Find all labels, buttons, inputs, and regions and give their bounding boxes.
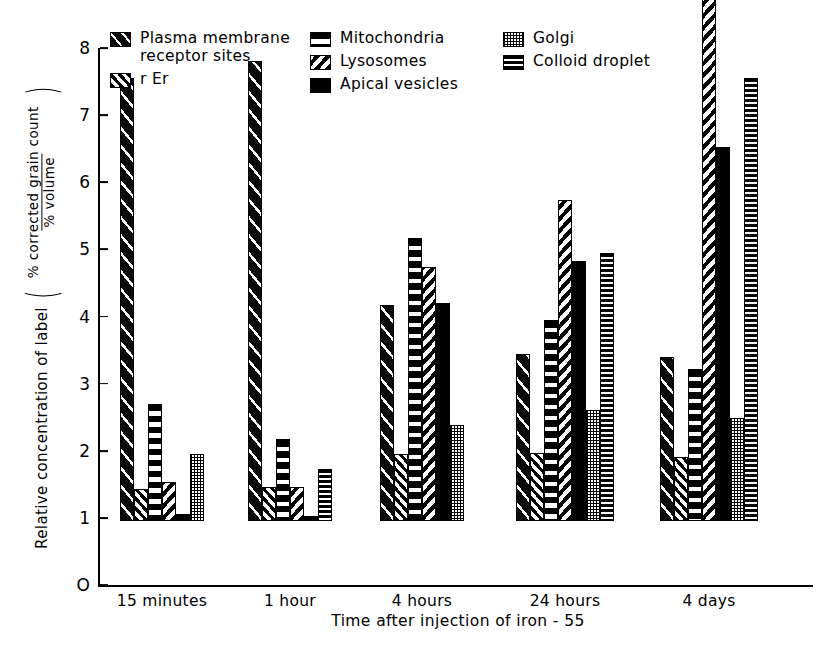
- bar-apical[interactable]: [176, 514, 190, 521]
- legend-label-lyso: Lysosomes: [340, 53, 427, 71]
- legend-item-golgi[interactable]: Golgi: [503, 30, 650, 48]
- bar-rer[interactable]: [262, 487, 276, 521]
- bar-apical[interactable]: [436, 303, 450, 521]
- bar-plasma[interactable]: [120, 78, 134, 521]
- bar-colloid[interactable]: [600, 253, 614, 522]
- legend-column: GolgiColloid droplet: [503, 30, 650, 76]
- legend-column: MitochondriaLysosomesApical vesicles: [310, 30, 458, 98]
- bar-lyso[interactable]: [422, 267, 436, 521]
- legend-item-lyso[interactable]: Lysosomes: [310, 53, 458, 71]
- bar-golgi[interactable]: [730, 418, 744, 521]
- bar-rer[interactable]: [530, 453, 544, 521]
- legend-label-mito: Mitochondria: [340, 30, 445, 48]
- y-axis-fraction-denominator: % volume: [42, 154, 58, 230]
- bar-rer[interactable]: [134, 489, 148, 521]
- bar-rer[interactable]: [674, 457, 688, 521]
- x-tick-label: 24 hours: [530, 592, 601, 610]
- legend-item-rer[interactable]: r Er: [110, 71, 290, 89]
- bar-chart-figure: Relative concentration of label ( % corr…: [0, 0, 827, 649]
- y-tick-label: 3: [70, 374, 90, 394]
- legend-item-plasma[interactable]: Plasma membrane receptor sites: [110, 30, 290, 66]
- y-axis-title: Relative concentration of label ( % corr…: [26, 56, 57, 576]
- bar-apical[interactable]: [304, 516, 318, 521]
- bar-mito[interactable]: [276, 439, 290, 521]
- legend-item-apical[interactable]: Apical vesicles: [310, 76, 458, 94]
- x-tick-label: 15 minutes: [117, 592, 207, 610]
- bar-colloid[interactable]: [318, 469, 332, 521]
- legend-label-golgi: Golgi: [533, 30, 574, 48]
- legend-swatch-colloid-icon: [503, 55, 524, 70]
- bar-plasma[interactable]: [248, 61, 262, 521]
- legend-label-rer: r Er: [140, 71, 169, 89]
- legend-swatch-rer-icon: [110, 73, 131, 88]
- legend-label-plasma: Plasma membrane receptor sites: [140, 30, 290, 66]
- bar-lyso[interactable]: [290, 487, 304, 521]
- legend-column: Plasma membrane receptor sitesr Er: [110, 30, 290, 93]
- x-axis-line: [98, 585, 813, 587]
- bar-lyso[interactable]: [162, 482, 176, 521]
- bar-mito[interactable]: [148, 404, 162, 521]
- bar-lyso[interactable]: [558, 200, 572, 521]
- bar-colloid[interactable]: [744, 78, 758, 521]
- bar-mito[interactable]: [408, 238, 422, 521]
- bar-rer[interactable]: [394, 454, 408, 521]
- y-tick-label: 6: [70, 172, 90, 192]
- bar-apical[interactable]: [716, 147, 730, 521]
- legend-label-apical: Apical vesicles: [340, 76, 458, 94]
- bar-golgi[interactable]: [586, 410, 600, 521]
- bar-apical[interactable]: [572, 261, 586, 521]
- bar-plasma[interactable]: [660, 357, 674, 521]
- y-tick-label: 4: [70, 307, 90, 327]
- legend-label-colloid: Colloid droplet: [533, 53, 650, 71]
- x-tick-label: 4 days: [682, 592, 735, 610]
- y-tick-label: 5: [70, 239, 90, 259]
- chart-legend: Plasma membrane receptor sitesr ErMitoch…: [0, 0, 827, 120]
- legend-item-mito[interactable]: Mitochondria: [310, 30, 458, 48]
- legend-swatch-lyso-icon: [310, 55, 331, 70]
- legend-swatch-plasma-icon: [110, 32, 131, 47]
- y-tick-label: 1: [70, 508, 90, 528]
- legend-item-colloid[interactable]: Colloid droplet: [503, 53, 650, 71]
- x-tick-label: 1 hour: [264, 592, 316, 610]
- legend-swatch-apical-icon: [310, 78, 331, 93]
- bar-mito[interactable]: [544, 320, 558, 521]
- legend-swatch-golgi-icon: [503, 32, 524, 47]
- x-axis-title: Time after injection of iron - 55: [138, 612, 778, 630]
- y-tick-label: 2: [70, 441, 90, 461]
- bar-plasma[interactable]: [380, 305, 394, 521]
- bar-plasma[interactable]: [516, 354, 530, 521]
- y-axis-fraction-numerator: % corrected grain count: [26, 103, 41, 281]
- bar-golgi[interactable]: [450, 425, 464, 521]
- y-axis-fraction: % corrected grain count % volume: [26, 103, 57, 281]
- y-tick-label: O: [70, 575, 90, 595]
- bar-golgi[interactable]: [190, 454, 204, 521]
- bar-mito[interactable]: [688, 369, 702, 521]
- legend-swatch-mito-icon: [310, 32, 331, 47]
- y-axis-title-text: Relative concentration of label: [33, 307, 51, 549]
- x-tick-label: 4 hours: [392, 592, 452, 610]
